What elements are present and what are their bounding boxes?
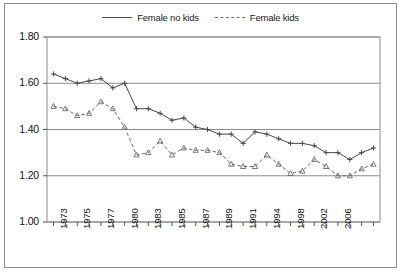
chart-figure: Female no kids Female kids 1.801.601.401… bbox=[0, 0, 401, 278]
plot-area: 1.801.601.401.201.00 1973197519771980198… bbox=[0, 0, 401, 278]
data-point-marker-cross bbox=[323, 150, 328, 155]
x-tick-label: 1991 bbox=[247, 208, 258, 229]
data-point-marker-triangle bbox=[51, 104, 56, 109]
data-point-marker-cross bbox=[288, 141, 293, 146]
data-point-marker-cross bbox=[122, 81, 127, 86]
y-tick-label: 1.00 bbox=[5, 215, 39, 227]
data-point-marker-cross bbox=[158, 111, 163, 116]
x-tick-label: 1989 bbox=[223, 208, 234, 229]
x-tick-label: 1973 bbox=[58, 208, 69, 229]
data-point-marker-cross bbox=[146, 106, 151, 111]
data-point-marker-cross bbox=[359, 150, 364, 155]
data-point-marker-triangle bbox=[264, 152, 269, 157]
data-point-marker-triangle bbox=[158, 138, 163, 143]
x-tick-label: 1975 bbox=[81, 208, 92, 229]
x-tick-label: 1994 bbox=[271, 208, 282, 229]
x-tick-label: 1983 bbox=[152, 208, 163, 229]
series-line-female-no-kids bbox=[54, 74, 374, 160]
x-tick-label: 1987 bbox=[200, 208, 211, 229]
y-tick-label: 1.40 bbox=[5, 123, 39, 135]
x-tick-label: 2002 bbox=[318, 208, 329, 229]
y-tick-label: 1.20 bbox=[5, 169, 39, 181]
data-point-marker-cross bbox=[312, 143, 317, 148]
data-point-marker-cross bbox=[217, 132, 222, 137]
y-tick-label: 1.80 bbox=[5, 30, 39, 42]
data-point-marker-cross bbox=[169, 118, 174, 123]
x-tick-label: 1980 bbox=[129, 208, 140, 229]
x-tick-label: 1977 bbox=[105, 208, 116, 229]
data-point-marker-triangle bbox=[63, 106, 68, 111]
data-point-marker-cross bbox=[335, 150, 340, 155]
data-point-marker-triangle bbox=[288, 171, 293, 176]
x-tick-label: 1985 bbox=[176, 208, 187, 229]
data-point-marker-cross bbox=[371, 145, 376, 150]
data-point-marker-cross bbox=[63, 76, 68, 81]
data-point-marker-cross bbox=[134, 106, 139, 111]
data-point-marker-cross bbox=[276, 136, 281, 141]
data-point-marker-cross bbox=[264, 132, 269, 137]
data-point-marker-cross bbox=[75, 81, 80, 86]
data-point-marker-triangle bbox=[371, 161, 376, 166]
y-tick-label: 1.60 bbox=[5, 76, 39, 88]
data-point-marker-triangle bbox=[323, 164, 328, 169]
plot-svg bbox=[0, 0, 401, 278]
data-point-marker-cross bbox=[347, 157, 352, 162]
data-point-marker-cross bbox=[205, 127, 210, 132]
data-point-marker-cross bbox=[300, 141, 305, 146]
x-tick-label: 2006 bbox=[342, 208, 353, 229]
x-tick-label: 1998 bbox=[295, 208, 306, 229]
data-point-marker-cross bbox=[51, 71, 56, 76]
